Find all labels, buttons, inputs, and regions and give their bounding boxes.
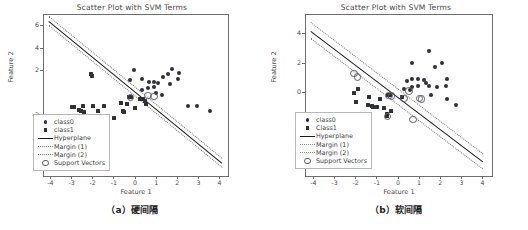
data-point-class0 (166, 72, 170, 76)
support-vector-marker (150, 93, 157, 100)
y-tick: 4 (17, 44, 39, 51)
legend-label: Support Vectors (316, 157, 367, 165)
figure-caption-a: （a）硬间隔 (0, 203, 264, 216)
data-point-class0 (170, 67, 174, 71)
chart-panel-a: Scatter Plot with SVM Terms Feature 2 Fe… (0, 0, 264, 230)
legend-item-class1[interactable]: class1 (37, 126, 105, 134)
legend-label: Margin (1) (54, 143, 87, 151)
x-tick: -3 (62, 179, 82, 186)
legend-item-margin-1[interactable]: Margin (1) (37, 143, 105, 151)
support-vector-marker (388, 92, 395, 99)
data-point-class1 (72, 105, 76, 109)
x-tick: 1 (409, 179, 429, 186)
data-point-class0 (156, 81, 160, 85)
support-vector-marker (418, 95, 425, 102)
dotted-line-icon (299, 149, 316, 157)
data-point-class0 (160, 93, 164, 97)
data-point-class0 (454, 103, 458, 107)
data-point-class0 (146, 86, 150, 90)
x-tick: -2 (346, 179, 366, 186)
support-vector-marker (354, 73, 361, 80)
x-tick: -4 (303, 179, 323, 186)
data-point-class0 (444, 84, 448, 88)
data-point-class0 (427, 49, 431, 53)
legend-item-class0[interactable]: class0 (37, 118, 105, 126)
data-point-class0 (128, 78, 132, 82)
legend-label: Class1 (316, 124, 337, 132)
x-tick-label: -2 (90, 179, 96, 186)
x-tick-label: 3 (459, 179, 463, 186)
chart-panel-b: Scatter Plot with SVM Terms Feature 2 Fe… (264, 0, 528, 230)
data-point-class1 (102, 104, 106, 108)
legend-item-margin-2[interactable]: Margin (2) (299, 149, 367, 157)
data-point-class1 (81, 104, 85, 108)
data-point-class1 (91, 104, 95, 108)
x-tick: 4 (473, 179, 493, 186)
legend-label: class0 (316, 116, 336, 124)
x-tick: 3 (451, 179, 471, 186)
legend-item-margin-1[interactable]: Margin (1) (299, 141, 367, 149)
data-point-Class1 (389, 109, 393, 113)
y-axis-label-a: Feature 2 (7, 27, 15, 107)
legend-label: Margin (2) (316, 149, 349, 157)
solid-line-icon (37, 134, 54, 142)
solid-line-icon (299, 132, 316, 140)
data-point-class0 (445, 97, 449, 101)
x-tick-label: -1 (374, 179, 380, 186)
x-tick-label: -1 (111, 179, 117, 186)
circle-icon (299, 116, 316, 124)
support-vector-marker (409, 116, 416, 123)
y-tick: 4 (279, 29, 301, 36)
data-point-class0 (195, 104, 199, 108)
legend-item-support-vectors[interactable]: Support Vectors (299, 157, 367, 165)
legend-label: Hyperplane (316, 132, 353, 140)
data-point-class0 (416, 77, 420, 81)
data-point-class0 (177, 71, 181, 75)
x-tick: 0 (125, 179, 145, 186)
legend-item-margin-2[interactable]: Margin (2) (37, 151, 105, 159)
legend-item-support-vectors[interactable]: Support Vectors (37, 159, 105, 167)
data-point-class0 (433, 65, 437, 69)
x-tick-label: 2 (438, 179, 442, 186)
data-point-Class1 (378, 97, 382, 101)
data-point-class0 (445, 77, 449, 81)
data-point-class0 (405, 79, 409, 83)
data-point-Class1 (354, 100, 358, 104)
data-point-class1 (133, 106, 137, 110)
x-tick-label: 0 (133, 179, 137, 186)
data-point-Class1 (367, 95, 371, 99)
x-tick-label: 2 (175, 179, 179, 186)
x-tick-label: 0 (396, 179, 400, 186)
y-tick-label: 6 (35, 21, 39, 28)
x-tick-label: -4 (47, 179, 53, 186)
data-point-class1 (90, 74, 94, 78)
legend-item-hyperplane[interactable]: Hyperplane (299, 132, 367, 140)
x-tick: 4 (210, 179, 230, 186)
chart-legend-a[interactable]: class0class1HyperplaneMargin (1)Margin (… (33, 114, 110, 171)
figure-caption-b: （b）软间隔 (264, 203, 528, 216)
data-point-class0 (410, 77, 414, 81)
data-point-Class1 (375, 105, 379, 109)
legend-item-class1[interactable]: Class1 (299, 124, 367, 132)
data-point-Class1 (352, 91, 356, 95)
support-vector-marker (400, 95, 407, 102)
y-axis-label-b: Feature 2 (270, 27, 278, 107)
data-point-class1 (125, 102, 129, 106)
data-point-class0 (152, 85, 156, 89)
y-tick: 0 (279, 88, 301, 95)
data-point-class0 (429, 93, 433, 97)
y-tick-label: 4 (297, 29, 301, 36)
data-point-class1 (119, 101, 123, 105)
data-point-class0 (168, 82, 172, 86)
chart-legend-b[interactable]: class0Class1HyperplaneMargin (1)Margin (… (295, 112, 372, 169)
x-tick: 2 (430, 179, 450, 186)
legend-item-hyperplane[interactable]: Hyperplane (37, 134, 105, 142)
x-tick: -1 (367, 179, 387, 186)
square-icon (37, 126, 54, 134)
x-tick: 2 (167, 179, 187, 186)
legend-item-class0[interactable]: class0 (299, 116, 367, 124)
x-tick: 0 (388, 179, 408, 186)
legend-label: class0 (54, 118, 74, 126)
x-axis-label-a: Feature 1 (43, 188, 229, 196)
data-point-class0 (416, 84, 420, 88)
